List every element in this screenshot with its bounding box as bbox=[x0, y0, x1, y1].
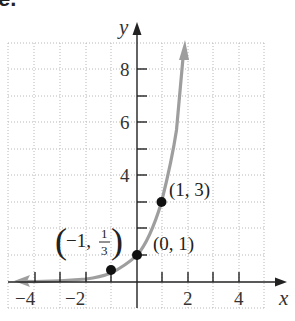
svg-text:1: 1 bbox=[101, 226, 108, 241]
grid bbox=[8, 43, 264, 308]
y-axis-arrow-icon bbox=[133, 22, 142, 35]
y-tick-label-4: 4 bbox=[120, 165, 130, 186]
label-point-1-3: (1, 3) bbox=[169, 179, 210, 201]
exponential-graph: e. bbox=[0, 0, 295, 321]
x-tick-label-neg4: −4 bbox=[15, 288, 36, 309]
point-0-1 bbox=[132, 250, 142, 260]
x-axis-label: x bbox=[278, 286, 289, 310]
label-point-0-1: (0, 1) bbox=[153, 233, 194, 255]
x-tick-label-neg2: −2 bbox=[65, 288, 85, 309]
y-ticks bbox=[137, 69, 147, 255]
x-tick-label-4: 4 bbox=[234, 288, 244, 309]
svg-text:): ) bbox=[111, 221, 123, 261]
x-tick-label-2: 2 bbox=[183, 288, 193, 309]
exercise-label: e. bbox=[0, 0, 16, 11]
point-1-3 bbox=[157, 197, 167, 207]
y-axis-label: y bbox=[117, 15, 129, 39]
svg-text:3: 3 bbox=[101, 243, 108, 258]
y-tick-label-6: 6 bbox=[120, 112, 130, 133]
y-tick-label-8: 8 bbox=[120, 59, 130, 80]
svg-text:−1,: −1, bbox=[66, 230, 91, 251]
point-neg1-third bbox=[106, 265, 116, 275]
